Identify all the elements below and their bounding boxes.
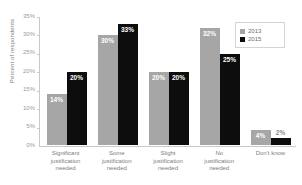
legend-swatch-icon	[240, 29, 245, 34]
chart-legend: 2013 2015	[235, 22, 285, 48]
bar-value-label: 20%	[169, 74, 189, 82]
bar-value-label: 32%	[200, 30, 220, 38]
bar-2015[interactable]: 33%	[118, 24, 138, 145]
bar-group: 14% 20%	[41, 17, 92, 145]
bar-2015[interactable]: 20%	[67, 72, 87, 145]
y-tick-mark	[37, 72, 40, 73]
bar-value-label: 30%	[98, 37, 118, 45]
bar-2013[interactable]: 30%	[98, 35, 118, 145]
bar-chart: Percent of respondents 35% 30% 25% 20% 1…	[0, 0, 302, 185]
x-axis-label: Significant justification needed	[40, 150, 91, 173]
bar-value-label: 20%	[67, 74, 87, 82]
bar-2015[interactable]: 20%	[169, 72, 189, 145]
bar-2013[interactable]: 20%	[149, 72, 169, 145]
bar-value-label: 14%	[47, 96, 67, 104]
y-tick-label: 35%	[23, 13, 35, 19]
y-tick-label: 5%	[26, 123, 35, 129]
legend-swatch-icon	[240, 37, 245, 42]
y-tick-label: 20%	[23, 68, 35, 74]
legend-label: 2013	[248, 28, 261, 34]
bar-group: 20% 20%	[143, 17, 194, 145]
y-tick-label: 0%	[26, 142, 35, 148]
legend-item-2013[interactable]: 2013	[240, 28, 280, 34]
bar-value-label: 20%	[149, 74, 169, 82]
bar-group: 30% 33%	[92, 17, 143, 145]
bar-value-label: 4%	[251, 132, 271, 140]
y-tick-label: 30%	[23, 31, 35, 37]
y-tick-mark	[37, 128, 40, 129]
legend-label: 2015	[248, 36, 261, 42]
y-tick-label: 10%	[23, 105, 35, 111]
y-tick-label: 15%	[23, 86, 35, 92]
y-axis-title: Percent of respondents	[9, 0, 15, 106]
y-tick-label: 25%	[23, 49, 35, 55]
legend-item-2015[interactable]: 2015	[240, 36, 280, 42]
bar-2013[interactable]: 14%	[47, 94, 67, 145]
x-axis-label: No justification needed	[194, 150, 245, 173]
bar-value-label: 2%	[271, 129, 291, 137]
y-tick-mark	[37, 54, 40, 55]
y-tick-mark	[37, 17, 40, 18]
y-tick-mark	[37, 35, 40, 36]
bar-2015[interactable]: 25%	[220, 54, 240, 145]
x-axis-label: Some justification needed	[91, 150, 142, 173]
bar-2013[interactable]: 4%	[251, 130, 271, 145]
bar-value-label: 33%	[118, 26, 138, 34]
bar-2013[interactable]: 32%	[200, 28, 220, 145]
y-tick-mark	[37, 91, 40, 92]
x-axis-label: Don't know	[245, 150, 296, 173]
y-tick-mark	[37, 109, 40, 110]
bar-2015[interactable]: 2%	[271, 138, 291, 145]
x-axis-label: Slight justification needed	[142, 150, 193, 173]
x-axis-labels: Significant justification needed Some ju…	[40, 150, 296, 173]
bar-value-label: 25%	[220, 56, 240, 64]
